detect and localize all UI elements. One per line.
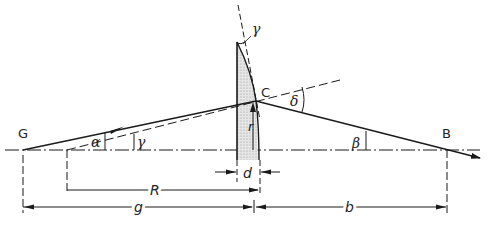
b-dimension-label: b <box>345 199 354 215</box>
d-dimension-label: d <box>243 165 252 181</box>
R-dimension-label: R <box>150 182 160 198</box>
delta-label: δ <box>290 93 298 109</box>
b-left-arrow-icon <box>256 205 266 210</box>
incident-ray-arrow-icon <box>110 127 124 135</box>
b-right-arrow-icon <box>436 205 446 210</box>
alpha-label: α <box>91 134 101 150</box>
gamma-lower-label: γ <box>137 134 146 150</box>
point-G-label: G <box>18 126 28 141</box>
point-B-label: B <box>442 126 451 141</box>
R-arrow-icon <box>249 188 259 193</box>
g-right-arrow-icon <box>243 205 253 210</box>
point-C-label: C <box>261 85 270 100</box>
lens-refraction-diagram: G B C α γ γ δ β R d g b r <box>0 0 492 230</box>
d-right-arrow-icon <box>261 170 271 175</box>
gamma-upper-label: γ <box>252 21 261 37</box>
d-left-arrow-icon <box>226 170 236 175</box>
g-left-arrow-icon <box>24 205 34 210</box>
beta-label: β <box>351 135 360 151</box>
radius-extension-line <box>67 80 340 150</box>
delta-arc <box>302 87 304 112</box>
g-dimension-label: g <box>134 199 143 215</box>
